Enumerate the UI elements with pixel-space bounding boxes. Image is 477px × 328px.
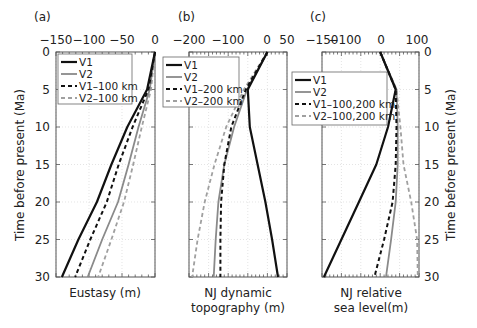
tick-label: 5 <box>424 83 432 97</box>
panel-label-c: (c) <box>310 10 326 24</box>
legend-item-v1-100-200: V1–100,200 km <box>313 98 395 110</box>
tick-label: −100 <box>212 33 245 47</box>
tick-label: 0 <box>263 33 271 47</box>
y-axis-title-right: Time before present (Ma) <box>444 89 458 242</box>
left-yticks: 0 5 10 15 20 25 30 <box>35 45 50 284</box>
tick-label: −200 <box>173 33 206 47</box>
legend-item-v2: V2 <box>313 86 327 98</box>
legend-item-v2: V2 <box>184 71 198 83</box>
tick-label: 20 <box>424 195 439 209</box>
panel-b-xticks: −200 −100 0 50 <box>173 33 295 47</box>
legend-item-v1-200: V1–200 km <box>184 83 243 95</box>
tick-label: 15 <box>35 158 50 172</box>
tick-label: 0 <box>42 45 50 59</box>
y-axis-title-left: Time before present (Ma) <box>13 89 27 242</box>
legend-item-v2-100-200: V2–100,200 km <box>313 110 395 122</box>
tick-label: −50 <box>109 33 134 47</box>
panel-c-xticks: −150 −100 0 100 <box>306 33 429 47</box>
x-axis-title-b-line2: topography (m) <box>191 301 285 315</box>
legend-item-v1-100: V1–100 km <box>79 80 138 92</box>
figure: (a) (b) (c) −150 −100 −50 0 −200 −100 0 … <box>0 0 477 328</box>
panel-a-xticks: −150 −100 −50 0 <box>40 33 159 47</box>
legend-item-v1: V1 <box>313 74 327 86</box>
legend-item-v2-100: V2–100 km <box>79 92 138 104</box>
x-axis-title-a: Eustasy (m) <box>69 286 141 300</box>
tick-label: 5 <box>42 83 50 97</box>
tick-label: 20 <box>35 195 50 209</box>
tick-label: 30 <box>424 270 439 284</box>
legend-b: V1 V2 V1–200 km V2–200 km <box>163 57 243 107</box>
tick-label: 0 <box>424 45 432 59</box>
legend-item-v2-200: V2–200 km <box>184 95 243 107</box>
x-axis-title-b-line1: NJ dynamic <box>204 286 272 300</box>
tick-label: 0 <box>151 33 159 47</box>
tick-label: 15 <box>424 158 439 172</box>
right-yticks: 0 5 10 15 20 25 30 <box>424 45 439 284</box>
legend-item-v2: V2 <box>79 68 93 80</box>
panel-label-b: (b) <box>178 10 195 24</box>
tick-label: −100 <box>329 33 362 47</box>
legend-item-v1: V1 <box>184 59 198 71</box>
tick-label: 30 <box>35 270 50 284</box>
x-axis-title-c-line1: NJ relative <box>340 286 402 300</box>
tick-label: 10 <box>35 120 50 134</box>
legend-item-v1: V1 <box>79 56 93 68</box>
legend-c: V1 V2 V1–100,200 km V2–100,200 km <box>292 72 395 125</box>
tick-label: 50 <box>279 33 294 47</box>
tick-label: 25 <box>35 233 50 247</box>
tick-label: −100 <box>73 33 106 47</box>
panel-label-a: (a) <box>34 10 51 24</box>
legend-a: V1 V2 V1–100 km V2–100 km <box>58 54 138 104</box>
tick-label: 10 <box>424 120 439 134</box>
x-axis-title-c-line2: sea level(m) <box>334 301 408 315</box>
tick-label: 25 <box>424 233 439 247</box>
tick-label: 0 <box>377 33 385 47</box>
